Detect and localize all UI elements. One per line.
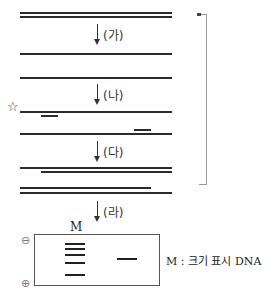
template-strand-1 [20, 111, 172, 113]
step-arrow-ga [97, 24, 98, 41]
template-strand-2 [20, 133, 172, 135]
extended-template-2 [20, 192, 172, 194]
step-label-na: (나) [103, 86, 123, 103]
marker-band-2 [65, 248, 85, 250]
negative-electrode-icon: ⊖ [21, 234, 30, 247]
sample-band [117, 258, 137, 260]
extended-new-strand-2 [20, 187, 151, 189]
positive-electrode-icon: ⊕ [21, 277, 30, 290]
step-label-ra: (라) [103, 203, 123, 220]
extended-template-1 [20, 167, 172, 169]
single-strand-2 [20, 77, 172, 79]
step-arrow-da [97, 141, 98, 158]
marker-band-4 [65, 262, 85, 264]
marker-band-3 [65, 254, 85, 256]
step-label-ga: (가) [103, 26, 123, 43]
step-arrow-na [97, 84, 98, 101]
gel-box [34, 234, 160, 286]
marker-legend: M : 크기 표시 DNA [166, 252, 261, 268]
primer-2 [134, 129, 151, 131]
star-icon: ☆ [7, 99, 19, 114]
cycle-bracket-vertical [206, 14, 207, 185]
marker-band-5 [65, 274, 85, 276]
dna-strand-top [20, 12, 172, 14]
marker-lane-label: M [70, 220, 82, 234]
step-label-da: (다) [103, 143, 123, 160]
marker-band-1 [65, 243, 85, 245]
extended-new-strand-1 [41, 171, 172, 173]
cycle-bracket-bottom [199, 184, 207, 185]
step-arrow-ra [97, 201, 98, 218]
dna-strand-bottom [20, 16, 172, 18]
primer-1 [41, 115, 58, 117]
single-strand-1 [20, 53, 172, 55]
cycle-bracket-arrowhead [197, 13, 201, 16]
